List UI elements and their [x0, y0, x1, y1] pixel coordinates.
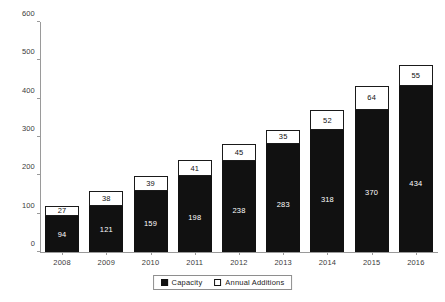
x-axis-tick-mark	[106, 252, 107, 255]
y-axis-tick-label: 600	[22, 9, 40, 18]
bar-value-label-capacity: 94	[46, 230, 78, 239]
x-axis-tick-label: 2015	[352, 258, 392, 267]
bar-value-label-capacity: 434	[400, 179, 432, 188]
y-axis-tick-mark	[37, 59, 40, 60]
bar-segment-capacity[interactable]: 121	[89, 206, 123, 252]
bar-value-label-capacity: 238	[223, 206, 255, 215]
bar-segment-capacity[interactable]: 94	[45, 216, 79, 252]
x-axis-tick-mark	[416, 252, 417, 255]
plot-area: 0100200300400500600279438121391594119845…	[40, 22, 438, 252]
x-axis-tick-mark	[372, 252, 373, 255]
filled-square-icon	[161, 279, 168, 286]
bar-group[interactable]: 52318	[310, 110, 344, 252]
bar-value-label-annual-additions: 52	[323, 116, 332, 125]
x-axis-tick-mark	[283, 252, 284, 255]
bar-group[interactable]: 45238	[222, 144, 256, 252]
bar-value-label-annual-additions: 38	[102, 194, 111, 203]
bar-value-label-capacity: 198	[179, 212, 211, 221]
bar-value-label-annual-additions: 35	[279, 132, 288, 141]
bar-group[interactable]: 64370	[355, 86, 389, 252]
x-axis-tick-mark	[151, 252, 152, 255]
bar-segment-annual-additions[interactable]: 27	[45, 206, 79, 216]
x-axis-tick-mark	[327, 252, 328, 255]
bar-group[interactable]: 39159	[134, 176, 168, 252]
y-axis-tick-mark	[37, 98, 40, 99]
x-axis-tick-label: 2011	[175, 258, 215, 267]
x-axis-tick-mark	[239, 252, 240, 255]
x-axis-tick-label: 2014	[307, 258, 347, 267]
y-axis-tick-mark	[37, 21, 40, 22]
legend-item-capacity: Capacity	[161, 278, 203, 287]
bar-value-label-annual-additions: 55	[412, 71, 421, 80]
bar-value-label-capacity: 121	[90, 225, 122, 234]
bar-segment-capacity[interactable]: 283	[266, 144, 300, 252]
y-axis-tick-mark	[37, 213, 40, 214]
bar-segment-capacity[interactable]: 159	[134, 191, 168, 252]
bar-group[interactable]: 2794	[45, 206, 79, 252]
x-axis-tick-label: 2016	[396, 258, 436, 267]
bar-value-label-capacity: 370	[356, 187, 388, 196]
bar-group[interactable]: 38121	[89, 191, 123, 252]
bar-value-label-annual-additions: 45	[235, 148, 244, 157]
stacked-bar-chart: 0100200300400500600279438121391594119845…	[0, 0, 445, 302]
legend-label-capacity: Capacity	[172, 278, 203, 287]
bar-segment-annual-additions[interactable]: 35	[266, 130, 300, 143]
bar-value-label-capacity: 318	[311, 194, 343, 203]
bar-segment-capacity[interactable]: 198	[178, 176, 212, 252]
y-axis-tick-label: 100	[22, 200, 40, 209]
y-axis-tick-mark	[37, 136, 40, 137]
bar-value-label-annual-additions: 27	[58, 206, 67, 215]
bar-group[interactable]: 55434	[399, 65, 433, 252]
bar-value-label-capacity: 159	[135, 219, 167, 228]
y-axis-tick-label: 500	[22, 47, 40, 56]
x-axis-tick-label: 2010	[131, 258, 171, 267]
bar-segment-annual-additions[interactable]: 38	[89, 191, 123, 206]
x-axis-tick-label: 2013	[263, 258, 303, 267]
legend-item-annual-additions: Annual Additions	[214, 278, 284, 287]
chart-legend: Capacity Annual Additions	[153, 275, 293, 290]
y-axis-tick-label: 200	[22, 162, 40, 171]
legend-label-annual-additions: Annual Additions	[225, 278, 284, 287]
x-axis-tick-label: 2009	[86, 258, 126, 267]
bar-value-label-annual-additions: 41	[190, 164, 199, 173]
outlined-square-icon	[214, 279, 221, 286]
bar-group[interactable]: 41198	[178, 160, 212, 252]
x-axis-tick-label: 2012	[219, 258, 259, 267]
bar-value-label-annual-additions: 39	[146, 179, 155, 188]
bar-segment-annual-additions[interactable]: 52	[310, 110, 344, 130]
bar-segment-capacity[interactable]: 434	[399, 86, 433, 252]
y-axis-tick-label: 0	[31, 239, 40, 248]
x-axis-tick-mark	[195, 252, 196, 255]
bar-segment-annual-additions[interactable]: 39	[134, 176, 168, 191]
bar-segment-capacity[interactable]: 318	[310, 130, 344, 252]
bar-segment-annual-additions[interactable]: 64	[355, 86, 389, 111]
bar-group[interactable]: 35283	[266, 130, 300, 252]
y-axis-tick-label: 300	[22, 124, 40, 133]
y-axis-tick-mark	[37, 251, 40, 252]
y-axis-tick-mark	[37, 174, 40, 175]
y-axis-tick-label: 400	[22, 85, 40, 94]
bar-segment-annual-additions[interactable]: 45	[222, 144, 256, 161]
bar-value-label-annual-additions: 64	[367, 93, 376, 102]
bar-segment-capacity[interactable]: 370	[355, 110, 389, 252]
x-axis-tick-mark	[62, 252, 63, 255]
bar-segment-capacity[interactable]: 238	[222, 161, 256, 252]
bar-segment-annual-additions[interactable]: 41	[178, 160, 212, 176]
x-axis-tick-label: 2008	[42, 258, 82, 267]
bar-value-label-capacity: 283	[267, 199, 299, 208]
bar-segment-annual-additions[interactable]: 55	[399, 65, 433, 86]
